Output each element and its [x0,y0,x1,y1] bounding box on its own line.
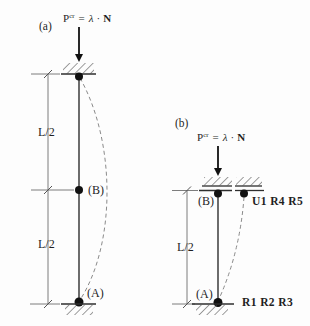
diagram-canvas: (a) Pcr=λ·N L/2 L/2 [0,0,310,326]
load-arrow-b [214,146,222,176]
node-mid-label-a: (B) [88,183,104,197]
load-arrow-a [75,27,83,62]
dimension-b: L/2 [172,187,198,309]
node-top-dot-b [214,190,222,198]
load-cdot-a: · [97,12,101,24]
load-sup-b: cr [203,131,209,139]
bottom-support-b [192,304,234,315]
node-top-dot-a [75,73,83,81]
top-support-hatch-right-b [236,177,262,186]
load-arrow-head-a [75,54,83,62]
node-bottom-label-b: (A) [196,287,213,301]
load-equals-a: = [79,12,85,24]
node-mid-dot-a [75,186,83,194]
top-support-hatch-left-b [204,177,232,186]
dim-upper-label-a: L/2 [38,125,55,139]
top-support-b [199,177,264,191]
figure-a-load-formula: Pcr=λ·N [63,12,111,24]
dim-lower-label-a: L/2 [38,237,55,251]
bottom-support-hatch-a [65,305,93,315]
load-arrow-head-b [214,168,222,176]
load-cdot-b: · [231,131,235,143]
restraint-top-label-b: U1 R4 R5 [252,195,303,207]
load-lambda-b: λ [222,131,228,143]
figure-a: (a) Pcr=λ·N L/2 L/2 [30,12,111,315]
figure-b-load-formula: Pcr=λ·N [197,131,245,143]
figure-a-label: (a) [39,20,52,33]
buckled-shape-b [219,197,244,299]
buckling-diagram: (a) Pcr=λ·N L/2 L/2 [0,0,310,326]
load-n-b: N [237,131,245,143]
bottom-support-a [61,304,96,315]
load-sup-a: cr [69,12,75,20]
restraint-bottom-label-b: R1 R2 R3 [242,296,293,308]
top-support-a [61,63,96,74]
dimension-a: L/2 L/2 [30,70,74,308]
node-top-label-b: (B) [198,194,214,208]
figure-b-label: (b) [175,117,189,130]
dim-lower-label-b: L/2 [177,240,194,254]
load-equals-b: = [213,131,219,143]
load-lambda-a: λ [88,12,94,24]
node-top-right-dot-b [240,190,248,198]
load-n-a: N [103,12,111,24]
node-bottom-label-a: (A) [87,286,104,300]
top-support-hatch-a [63,63,94,74]
figure-b: (b) Pcr=λ·N (B) U1 R4 R5 [172,117,303,315]
bottom-support-hatch-b [196,305,228,315]
